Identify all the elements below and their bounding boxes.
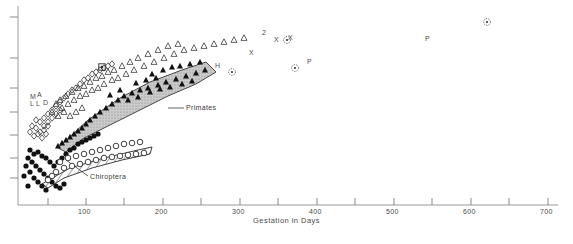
annotation-chiroptera: Chiroptera bbox=[90, 173, 126, 180]
outlier-marker-x2: X bbox=[274, 36, 279, 43]
x-tick-label-500: 500 bbox=[386, 208, 399, 215]
cluster-letter-d: D bbox=[43, 99, 48, 106]
x-tick-label-600: 600 bbox=[463, 208, 476, 215]
y-axis-ticks bbox=[10, 17, 18, 178]
x-axis-ticks bbox=[48, 198, 548, 205]
outlier-marker-x3: X bbox=[288, 34, 293, 41]
x-tick-label-400: 400 bbox=[309, 208, 322, 215]
x-tick-label-700: 700 bbox=[540, 208, 553, 215]
outlier-marker-p2: P bbox=[425, 35, 430, 42]
cluster-letter-m: M bbox=[30, 93, 36, 100]
series-dotted-circle bbox=[229, 19, 491, 76]
outlier-marker-x1: X bbox=[249, 49, 254, 56]
annotation-primates: Primates bbox=[186, 104, 216, 111]
x-tick-label-200: 200 bbox=[155, 208, 168, 215]
cluster-letter-a: A bbox=[37, 91, 42, 98]
x-tick-label-300: 300 bbox=[232, 208, 245, 215]
cluster-letter-l1: L bbox=[30, 100, 34, 107]
outlier-marker-p1: P bbox=[307, 58, 312, 65]
x-tick-label-100: 100 bbox=[78, 208, 91, 215]
cluster-letter-l2: L bbox=[36, 100, 40, 107]
x-axis-title: Gestation in Days bbox=[0, 216, 573, 225]
outlier-marker-2: 2 bbox=[262, 29, 266, 36]
outlier-marker-h: H bbox=[215, 62, 220, 69]
